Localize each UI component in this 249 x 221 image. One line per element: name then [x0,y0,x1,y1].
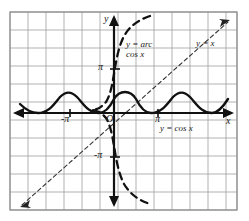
identity-label: y = x [196,39,215,48]
arccos-label-line2: cos x [126,50,144,59]
tick-label-x-negative-pi: -π [61,114,69,125]
tick-label-y-negative-pi: -π [94,150,102,161]
x-axis-label: x [226,116,230,127]
tick-label-y-positive-pi: π [98,62,103,73]
graph-canvas [0,0,249,221]
y-axis-label: y [104,14,108,25]
cosine-label: y = cos x [160,124,193,133]
math-figure: y x O -π π π -π y = arc cos x y = x y = … [0,0,249,221]
origin-label: O [106,114,113,125]
